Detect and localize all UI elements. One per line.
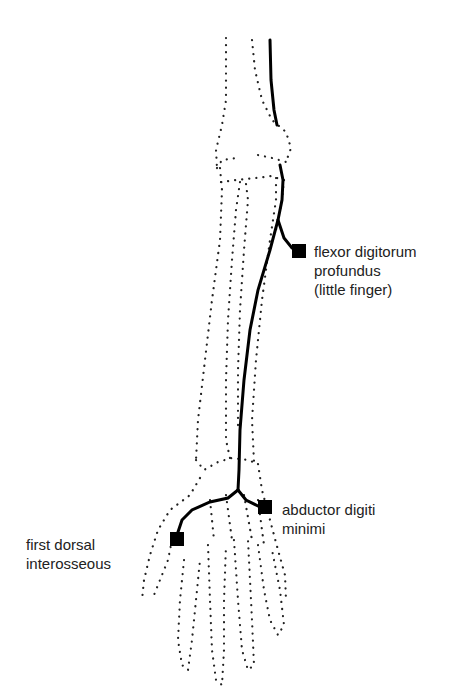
label-abductor-digiti-minimi: abductor digiti minimi (282, 500, 375, 538)
ulnar-nerve (176, 40, 298, 538)
label-line: abductor digiti (282, 500, 375, 519)
humerus-outline (216, 38, 291, 168)
fdp-marker (292, 244, 306, 258)
label-first-dorsal-interosseous: first dorsal interosseous (26, 535, 111, 573)
label-line: profundus (314, 261, 417, 280)
fdi-marker (170, 532, 184, 546)
label-line: flexor digitorum (314, 242, 417, 261)
adm-marker (258, 500, 272, 514)
label-line: (little finger) (314, 280, 417, 299)
hand-outline (142, 458, 286, 685)
label-line: minimi (282, 519, 375, 538)
label-line: interosseous (26, 554, 111, 573)
label-flexor-digitorum-profundus: flexor digitorum profundus (little finge… (314, 242, 417, 299)
label-line: first dorsal (26, 535, 111, 554)
arm-diagram (0, 0, 450, 698)
